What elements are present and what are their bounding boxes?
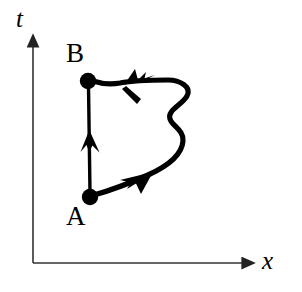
straight-path-a-to-b	[81, 86, 100, 193]
point-a-label: A	[66, 203, 86, 230]
point-b-label: B	[66, 40, 84, 67]
wiggly-path-arrowhead-upper-barb	[122, 86, 141, 104]
time-axis-label: t	[16, 6, 23, 31]
diagram-canvas	[0, 0, 302, 292]
wiggly-path-a-to-b	[93, 69, 188, 195]
space-axis-label: x	[262, 248, 273, 273]
spacetime-diagram: t x B A	[0, 0, 302, 292]
straight-path-arrowhead	[81, 130, 100, 153]
point-b-marker	[80, 73, 96, 89]
